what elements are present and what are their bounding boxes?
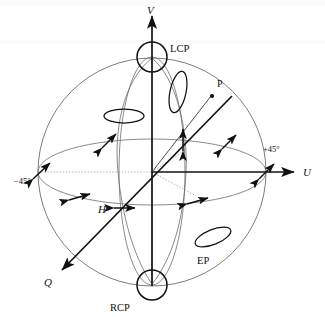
equator-label-plus45: +45° bbox=[263, 144, 280, 154]
linear-arrow-minus45-u-edge bbox=[33, 163, 50, 179]
scan-band-mid bbox=[0, 40, 325, 44]
poincare-sphere-figure: V U Q P LCP RCP EP H +45° −45° bbox=[0, 0, 325, 317]
pole-label-lcp: LCP bbox=[170, 43, 189, 54]
guide-q-positive bbox=[152, 172, 196, 196]
axis-label-u: U bbox=[303, 166, 312, 178]
axis-label-q: Q bbox=[44, 276, 52, 288]
equator-label-h: H bbox=[97, 203, 107, 215]
meridian-arc-right bbox=[152, 58, 186, 284]
state-vector-p bbox=[152, 96, 211, 172]
ellipse-label-ep: EP bbox=[197, 255, 209, 266]
polarization-ellipse-upper-right bbox=[166, 70, 190, 114]
linear-arrow-plus45-upper-right bbox=[222, 135, 236, 149]
equator-label-minus45: −45° bbox=[14, 176, 31, 186]
point-label-p: P bbox=[217, 78, 223, 89]
point-p-marker bbox=[210, 94, 214, 98]
meridian-arc-left bbox=[117, 58, 152, 284]
axis-q-line bbox=[62, 96, 232, 270]
pole-label-rcp: RCP bbox=[110, 302, 130, 313]
polarization-ellipse-ep bbox=[193, 223, 234, 251]
poincare-sphere-svg: V U Q P LCP RCP EP H +45° −45° bbox=[0, 0, 325, 317]
scan-band-top bbox=[0, 0, 325, 6]
